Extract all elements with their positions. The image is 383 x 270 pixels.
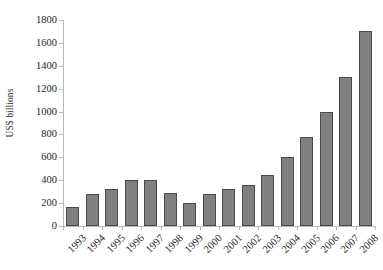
x-tick-label: 1998 <box>164 233 186 255</box>
x-tick-mark <box>356 226 357 230</box>
x-tick-mark <box>317 226 318 230</box>
bar[interactable] <box>281 157 294 226</box>
x-tick-mark <box>180 226 181 230</box>
x-tick-label: 2007 <box>339 233 361 255</box>
bar[interactable] <box>222 189 235 226</box>
y-tick-label: 1600 <box>36 38 57 49</box>
x-tick-mark <box>83 226 84 230</box>
bar[interactable] <box>86 194 99 226</box>
x-tick-mark <box>336 226 337 230</box>
x-tick-label: 2000 <box>203 233 225 255</box>
bar-slot[interactable] <box>83 20 103 226</box>
x-tick-label: 2006 <box>320 233 342 255</box>
bar[interactable] <box>105 189 118 226</box>
bar-slot[interactable] <box>336 20 356 226</box>
bar[interactable] <box>339 77 352 226</box>
bar[interactable] <box>203 194 216 226</box>
bar[interactable] <box>300 137 313 226</box>
x-tick-mark <box>297 226 298 230</box>
x-tick-mark <box>141 226 142 230</box>
bar[interactable] <box>125 180 138 226</box>
bar-slot[interactable] <box>297 20 317 226</box>
y-tick-label: 800 <box>41 129 57 140</box>
x-tick-label: 2002 <box>242 233 264 255</box>
x-tick-label: 1995 <box>105 233 127 255</box>
x-tick-mark <box>63 226 64 230</box>
x-tick-label: 2004 <box>281 233 303 255</box>
bar-slot[interactable] <box>102 20 122 226</box>
y-axis-title-label: US$ billions <box>5 89 15 138</box>
x-tick-mark <box>375 226 376 230</box>
bar-slot[interactable] <box>356 20 376 226</box>
y-tick-label: 1400 <box>36 61 57 72</box>
y-axis-title: US$ billions <box>2 0 18 226</box>
bar[interactable] <box>320 112 333 226</box>
bar-slot[interactable] <box>258 20 278 226</box>
x-tick-label: 2005 <box>300 233 322 255</box>
x-tick-mark <box>161 226 162 230</box>
bar-slot[interactable] <box>239 20 259 226</box>
bar[interactable] <box>66 207 79 226</box>
bar[interactable] <box>183 203 196 226</box>
bar-slot[interactable] <box>278 20 298 226</box>
x-tick-label: 2008 <box>359 233 381 255</box>
x-tick-label: 1997 <box>144 233 166 255</box>
y-tick-label: 200 <box>41 198 57 209</box>
bar-chart: US$ billions 020040060080010001200140016… <box>0 0 383 270</box>
bar-slot[interactable] <box>122 20 142 226</box>
x-tick-mark <box>102 226 103 230</box>
bar[interactable] <box>164 193 177 226</box>
x-tick-label: 1994 <box>86 233 108 255</box>
x-tick-mark <box>278 226 279 230</box>
x-tick-mark <box>258 226 259 230</box>
y-tick-label: 1000 <box>36 106 57 117</box>
bar-slot[interactable] <box>141 20 161 226</box>
bar[interactable] <box>359 31 372 226</box>
x-tick-mark <box>200 226 201 230</box>
x-tick-mark <box>239 226 240 230</box>
bar-slot[interactable] <box>161 20 181 226</box>
y-tick-label: 1200 <box>36 83 57 94</box>
bar-slot[interactable] <box>63 20 83 226</box>
x-tick-mark <box>219 226 220 230</box>
bar[interactable] <box>242 185 255 226</box>
bar-slot[interactable] <box>219 20 239 226</box>
y-tick-label: 400 <box>41 175 57 186</box>
bar-slot[interactable] <box>317 20 337 226</box>
x-tick-label: 2001 <box>222 233 244 255</box>
x-tick-label: 2003 <box>261 233 283 255</box>
y-tick-label: 0 <box>52 221 57 232</box>
plot-area: 020040060080010001200140016001800 <box>63 20 375 226</box>
x-tick-label: 1999 <box>183 233 205 255</box>
x-tick-label: 1993 <box>66 233 88 255</box>
y-tick-label: 1800 <box>36 15 57 26</box>
bar-slot[interactable] <box>200 20 220 226</box>
bar[interactable] <box>144 180 157 226</box>
x-tick-label: 1996 <box>125 233 147 255</box>
bar-slot[interactable] <box>180 20 200 226</box>
y-tick-label: 600 <box>41 152 57 163</box>
bar[interactable] <box>261 175 274 227</box>
x-tick-mark <box>122 226 123 230</box>
